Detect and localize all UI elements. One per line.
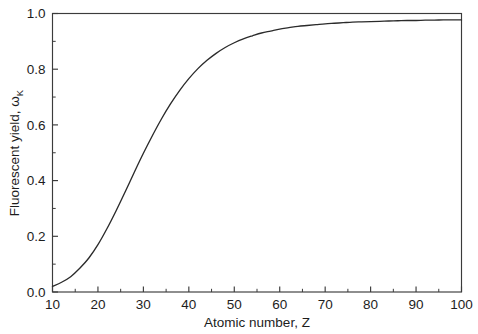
x-tick-label: 100 (450, 297, 473, 312)
chart-figure: 102030405060708090100 0.00.20.40.60.81.0… (0, 0, 478, 334)
y-tick-label: 0.8 (27, 62, 46, 77)
y-tick-label: 0.0 (27, 285, 46, 300)
x-tick-label: 80 (363, 297, 378, 312)
x-tick-label: 40 (181, 297, 196, 312)
y-axis-title-main: Fluorescent yield, ω (7, 96, 22, 216)
x-axis-title: Atomic number, Z (204, 315, 310, 330)
x-tick-label: 30 (136, 297, 151, 312)
x-tick-label: 10 (45, 297, 60, 312)
figure-background (0, 0, 478, 334)
y-tick-label: 1.0 (27, 6, 46, 21)
y-axis-title-group: Fluorescent yield, ωK (7, 89, 25, 216)
fluorescence-yield-plot: 102030405060708090100 0.00.20.40.60.81.0… (0, 0, 478, 334)
x-tick-label: 20 (90, 297, 105, 312)
x-tick-label: 90 (409, 297, 424, 312)
x-tick-label: 70 (318, 297, 333, 312)
y-axis-title: Fluorescent yield, ωK (7, 89, 25, 216)
x-tick-label: 60 (272, 297, 287, 312)
y-axis-title-subscript: K (14, 89, 25, 96)
y-tick-label: 0.4 (27, 173, 46, 188)
y-tick-label: 0.2 (27, 229, 46, 244)
y-tick-label: 0.6 (27, 118, 46, 133)
x-tick-label: 50 (227, 297, 242, 312)
